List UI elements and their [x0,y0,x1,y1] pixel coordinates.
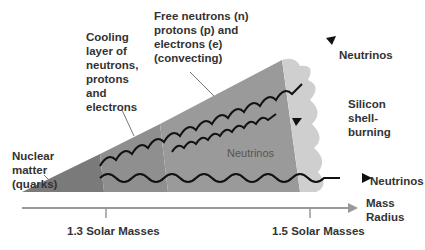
convecting-region [160,60,300,192]
label-line: layer of [86,44,138,58]
label-line: Radius [366,210,404,224]
label-line: electrons [86,100,138,114]
label-line: Nuclear [12,149,57,163]
label-line: (convecting) [154,51,249,65]
axis-label: Mass Radius [366,196,404,224]
label-line: and [86,86,138,100]
label-line: burning [348,125,391,139]
axis-arrow-icon [348,203,358,213]
label-line: Silicon [348,97,391,111]
silicon-shell-label: Silicon shell- burning [348,97,391,139]
free-particles-label: Free neutrons (n) protons (p) and electr… [154,9,249,65]
label-line: Free neutrons (n) [154,9,249,23]
tick-label-1-5: 1.5 Solar Masses [272,224,365,238]
label-line: Mass [366,196,404,210]
label-line: (quarks) [12,177,57,191]
label-line: electrons (e) [154,37,249,51]
label-line: protons (p) and [154,23,249,37]
label-line: Cooling [86,30,138,44]
label-line: neutrons, [86,58,138,72]
label-line: matter [12,163,57,177]
tick-label-1-3: 1.3 Solar Masses [67,224,160,238]
neutrinos-top-label: Neutrinos [339,48,393,62]
neutrinos-inner-label: Neutrinos [227,147,274,159]
leader-line [190,72,214,96]
arrowhead-icon [326,36,336,45]
label-line: protons [86,72,138,86]
cooling-layer-label: Cooling layer of neutrons, protons and e… [86,30,138,114]
nuclear-matter-label: Nuclear matter (quarks) [12,149,57,191]
neutrinos-bottom-label: Neutrinos [370,174,424,188]
label-line: shell- [348,111,391,125]
